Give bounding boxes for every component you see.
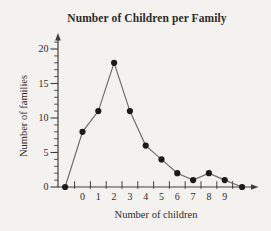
data-point [222, 177, 228, 183]
x-tick-label: 2 [112, 191, 117, 202]
y-tick-label: 15 [39, 78, 49, 89]
data-point [62, 184, 68, 190]
chart-figure: Number of Children per Family Number of … [0, 0, 271, 231]
x-axis-label: Number of children [115, 209, 199, 220]
x-tick-label: 4 [143, 191, 148, 202]
data-point [111, 60, 117, 66]
axes [55, 33, 258, 190]
y-tick-label: 0 [44, 181, 49, 192]
data-point [206, 170, 212, 176]
x-tick-label: 5 [159, 191, 164, 202]
data-point [127, 108, 133, 114]
data-point [239, 184, 245, 190]
series-line [65, 63, 242, 187]
y-axis-arrow [55, 33, 61, 41]
data-point [158, 156, 164, 162]
data-point [190, 177, 196, 183]
x-tick-label: 8 [206, 191, 211, 202]
chart-title: Number of Children per Family [67, 12, 227, 25]
x-tick-label: 0 [80, 191, 85, 202]
x-tick-label: 3 [127, 191, 132, 202]
x-tick-label: 7 [191, 191, 196, 202]
data-point [143, 143, 149, 149]
y-tick-label: 5 [44, 147, 49, 158]
frequency-polygon-chart: Number of Children per Family Number of … [0, 0, 271, 231]
x-axis-arrow [251, 184, 259, 190]
x-tick-label: 6 [175, 191, 180, 202]
data-point [95, 108, 101, 114]
frequency-polygon-series [62, 60, 245, 190]
y-axis-label: Number of families [18, 75, 29, 157]
x-tick-label: 1 [96, 191, 101, 202]
data-point [79, 129, 85, 135]
data-point [174, 170, 180, 176]
y-tick-label: 10 [39, 112, 49, 123]
y-tick-label: 20 [39, 43, 49, 54]
x-tick-label: 9 [222, 191, 227, 202]
